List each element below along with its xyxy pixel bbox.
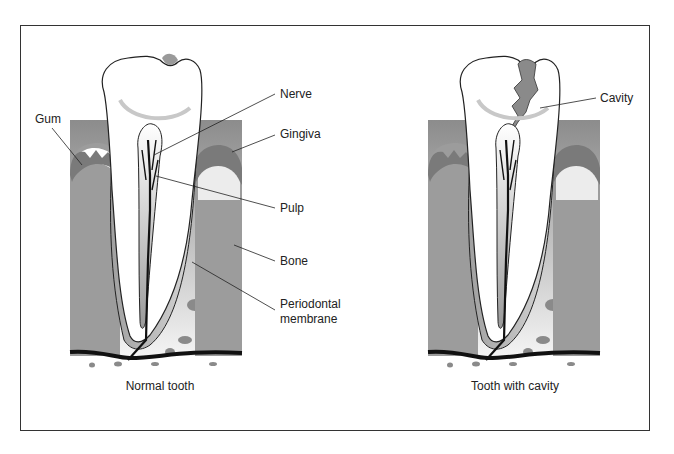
label-pulp: Pulp (280, 201, 304, 216)
label-periodontal-line2: membrane (280, 312, 341, 327)
label-nerve: Nerve (280, 87, 312, 102)
label-periodontal-line1: Periodontal (280, 297, 341, 312)
label-periodontal-membrane: Periodontal membrane (280, 297, 341, 327)
normal-tooth-illustration (70, 54, 242, 368)
label-gingiva: Gingiva (280, 127, 321, 142)
caption-normal-tooth: Normal tooth (90, 379, 230, 393)
label-gum: Gum (35, 112, 61, 127)
label-cavity: Cavity (600, 91, 633, 106)
cavity-tooth-illustration (428, 56, 600, 367)
label-bone: Bone (280, 254, 308, 269)
caption-tooth-with-cavity: Tooth with cavity (440, 379, 590, 393)
